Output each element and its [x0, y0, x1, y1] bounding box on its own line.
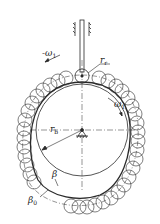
- base-radius-label: rb: [50, 125, 58, 135]
- roller-envelope: [17, 71, 145, 214]
- roller-radius-label: rr: [100, 56, 107, 66]
- omega-label-top: -ω1: [42, 49, 56, 59]
- cam-diagram: -ω1 rr ω1 rb β β0: [0, 0, 160, 224]
- omega-label-right: ω1: [114, 100, 125, 110]
- pitch-profile-label: β0: [28, 196, 37, 206]
- actual-profile-label: β: [52, 170, 57, 179]
- cam-drawing: [0, 0, 160, 224]
